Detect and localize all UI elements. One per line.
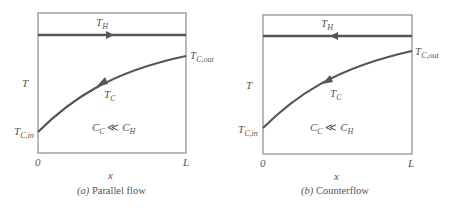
parallel-flow-plot	[0, 0, 230, 209]
cold-stream-label: TC	[104, 89, 115, 100]
hot-stream-label: TH	[321, 18, 333, 29]
x-start-tick: 0	[260, 158, 266, 169]
caption: (b) Counterflow	[301, 186, 369, 197]
y-axis-label: T	[246, 80, 252, 91]
arrow-up-right-icon	[97, 77, 108, 86]
x-axis-label: x	[108, 170, 113, 181]
arrow-left-icon	[330, 32, 338, 40]
capacity-condition: CC ≪ CH	[310, 122, 353, 133]
cold-inlet-label: TC,in	[238, 124, 258, 135]
x-start-tick: 0	[35, 157, 41, 168]
x-axis-label: x	[334, 171, 339, 182]
cold-inlet-label: TC,in	[14, 126, 34, 137]
cold-outlet-label: TC,out	[415, 46, 439, 57]
x-end-tick: L	[183, 157, 189, 168]
caption: (a) Parallel flow	[77, 186, 146, 197]
hot-stream-label: TH	[96, 17, 108, 28]
panel-parallel-flow: TH TC,out T TC TC,in CC ≪ CH 0 L x (a) P…	[0, 0, 230, 209]
counterflow-plot	[230, 0, 454, 209]
y-axis-label: T	[22, 78, 28, 89]
cold-outlet-label: TC,out	[190, 50, 214, 61]
arrow-up-right-icon	[322, 75, 333, 84]
panel-counterflow: TH TC,out T TC TC,in CC ≪ CH 0 L x (b) C…	[230, 0, 454, 209]
x-end-tick: L	[408, 158, 414, 169]
arrow-right-icon	[106, 31, 114, 39]
cold-stream-label: TC	[330, 88, 341, 99]
capacity-condition: CC ≪ CH	[92, 122, 135, 133]
